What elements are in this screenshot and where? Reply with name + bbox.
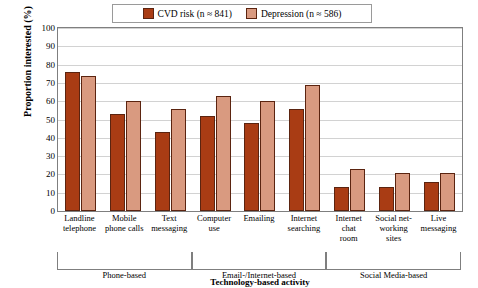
bar <box>244 123 259 211</box>
bar-group <box>103 28 148 211</box>
bar <box>65 72 80 211</box>
bar-group <box>193 28 238 211</box>
group-band <box>192 252 327 270</box>
bar-group <box>417 28 462 211</box>
bar-group <box>372 28 417 211</box>
bar <box>440 173 455 211</box>
y-tick-label: 50 <box>27 115 55 125</box>
y-axis-tick-labels: 0102030405060708090100 <box>27 27 55 212</box>
legend-label-depression: Depression (n ≈ 586) <box>261 9 341 19</box>
bar <box>289 109 304 211</box>
x-axis-title: Technology-based activity <box>57 277 463 287</box>
legend-item-depression: Depression (n ≈ 586) <box>246 8 341 19</box>
bar <box>350 169 365 211</box>
y-tick-label: 70 <box>27 78 55 88</box>
x-tick-label: Internetchatroom <box>326 213 371 243</box>
y-tick-label: 80 <box>27 60 55 70</box>
bar-series-container <box>58 28 462 211</box>
bar <box>424 182 439 211</box>
x-axis-group-bands: Phone-basedEmail-/Internet-basedSocial M… <box>57 252 463 278</box>
y-tick-label: 30 <box>27 151 55 161</box>
y-tick-label: 90 <box>27 41 55 51</box>
bar-group <box>148 28 193 211</box>
x-tick-label: Emailing <box>237 213 282 223</box>
y-tick-label: 0 <box>27 206 55 216</box>
legend-item-cvd: CVD risk (n ≈ 841) <box>143 8 232 19</box>
x-tick-label: Landlinetelephone <box>57 213 102 233</box>
bar <box>81 76 96 211</box>
y-tick-label: 60 <box>27 96 55 106</box>
bar <box>305 85 320 211</box>
x-tick-label: Livemessaging <box>416 213 461 233</box>
bar <box>379 187 394 211</box>
legend-swatch-cvd <box>143 8 154 19</box>
bar-group <box>58 28 103 211</box>
plot-area <box>57 27 463 212</box>
bar <box>395 173 410 211</box>
y-tick-label: 40 <box>27 133 55 143</box>
x-tick-label: Textmessaging <box>147 213 192 233</box>
chart-root: CVD risk (n ≈ 841) Depression (n ≈ 586) … <box>0 0 478 288</box>
bar-group <box>282 28 327 211</box>
bar-group <box>238 28 283 211</box>
chart-legend: CVD risk (n ≈ 841) Depression (n ≈ 586) <box>112 4 372 23</box>
bar-group <box>327 28 372 211</box>
x-axis-category-labels: LandlinetelephoneMobilephone callsTextme… <box>57 213 463 253</box>
y-tick-label: 10 <box>27 188 55 198</box>
y-tick-label: 100 <box>27 23 55 33</box>
x-tick-label: Internetsearching <box>281 213 326 233</box>
bar <box>110 114 125 211</box>
bar <box>216 96 231 211</box>
bar <box>155 132 170 211</box>
group-band <box>57 252 192 270</box>
bar <box>171 109 186 211</box>
y-tick-label: 20 <box>27 169 55 179</box>
bar <box>200 116 215 211</box>
legend-label-cvd: CVD risk (n ≈ 841) <box>158 9 232 19</box>
bar <box>260 101 275 211</box>
x-tick-label: Social net-workingsites <box>371 213 416 243</box>
group-band <box>326 252 461 270</box>
bar <box>334 187 349 211</box>
legend-swatch-depression <box>246 8 257 19</box>
bar <box>126 101 141 211</box>
x-tick-label: Mobilephone calls <box>102 213 147 233</box>
x-tick-label: Computeruse <box>192 213 237 233</box>
